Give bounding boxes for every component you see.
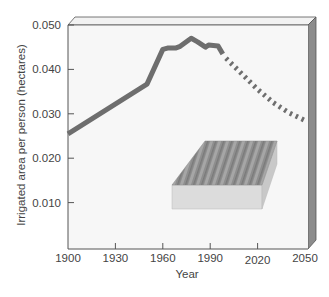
y-tick-label: 0.030 — [32, 108, 61, 120]
irrigated-area-chart: 0.0100.0200.0300.0400.050 19001930196019… — [0, 0, 329, 297]
x-tick-labels: 190019301960199020202050 — [55, 252, 318, 266]
x-tick-label: 1960 — [150, 252, 176, 264]
x-tick-label: 1900 — [55, 252, 81, 264]
x-tick-label: 1930 — [103, 252, 129, 264]
right-side-panel — [308, 17, 316, 249]
x-tick-label: 2050 — [292, 252, 318, 264]
y-tick-label: 0.040 — [32, 63, 61, 75]
plot-area — [68, 25, 308, 249]
y-tick-labels: 0.0100.0200.0300.0400.050 — [32, 19, 61, 209]
y-tick-label: 0.010 — [32, 197, 61, 209]
x-axis-title: Year — [175, 268, 198, 280]
y-tick-label: 0.050 — [32, 19, 61, 31]
y-tick-label: 0.020 — [32, 152, 61, 164]
x-tick-label: 2020 — [245, 254, 271, 266]
block-front-face — [172, 185, 262, 209]
y-axis-title: Irrigated area per person (hectares) — [15, 44, 27, 226]
top-bevel — [68, 17, 316, 25]
x-tick-label: 1990 — [197, 252, 223, 264]
